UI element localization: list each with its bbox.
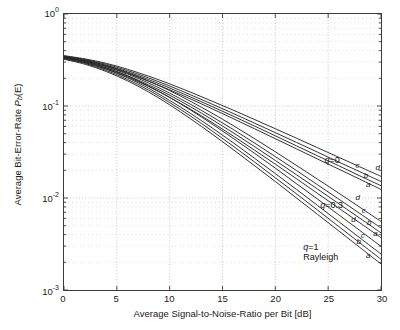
curve-label-a: a (373, 229, 377, 238)
x-axis-title: Average Signal-to-Noise-Ratio per Bit [d… (63, 308, 382, 319)
y-tick-label: 10-1 (42, 100, 59, 111)
y-axis-title-pre: Average Bit-Error-Rate (12, 106, 23, 205)
curve-label-d: d (351, 215, 355, 224)
y-axis-title: Average Bit-Error-Rate Pb(E) (12, 0, 23, 290)
x-tick-label: 30 (377, 293, 388, 304)
annotation-rayleigh-label: Rayleigh (303, 252, 338, 262)
x-tick-label: 5 (114, 293, 119, 304)
y-tick-exponent: -2 (53, 192, 59, 199)
y-axis-title-subscript: b (16, 96, 23, 100)
x-tick-label: 20 (270, 293, 281, 304)
y-tick-mantissa: 10 (42, 286, 53, 297)
y-axis-title-symbol: P (12, 100, 23, 106)
x-tick-label: 25 (324, 293, 335, 304)
annotation-q1-value: =1 (308, 242, 318, 252)
y-axis-tick-labels: 100 10-1 10-2 10-3 (0, 13, 59, 291)
curve-label-c: c (355, 161, 359, 170)
y-tick-label: 10-2 (42, 193, 59, 204)
annotation-q03-value: =0.3 (325, 200, 343, 210)
annotation-q0: q=0 (325, 155, 340, 165)
x-tick-label: 10 (164, 293, 175, 304)
annotation-q1-rayleigh: q=1 Rayleigh (303, 242, 338, 262)
y-tick-mantissa: 10 (45, 8, 56, 19)
figure-canvas: 100 10-1 10-2 10-3 051015202530 Average … (0, 0, 400, 330)
annotation-q03: q=0.3 (320, 200, 343, 210)
curve-label-d: d (375, 163, 379, 172)
curve-label-d: d (355, 193, 359, 202)
y-axis-title-post: (E) (12, 84, 23, 97)
curve-label-a: a (366, 180, 370, 189)
y-tick-label: 100 (45, 8, 59, 19)
y-tick-exponent: -1 (53, 99, 59, 106)
y-tick-exponent: -3 (53, 284, 59, 291)
y-tick-mantissa: 10 (42, 193, 53, 204)
annotation-q1-line1: q=1 (303, 242, 338, 252)
y-tick-label: 10-3 (42, 286, 59, 297)
curve-label-b: b (367, 218, 371, 227)
x-tick-label: 0 (60, 293, 65, 304)
curve-label-c: c (362, 206, 366, 215)
curve-label-c: c (361, 231, 365, 240)
curve-label-a: a (366, 251, 370, 260)
y-tick-mantissa: 10 (42, 100, 53, 111)
curve-label-b: b (364, 171, 368, 180)
annotation-q0-value: =0 (330, 155, 340, 165)
y-tick-exponent: 0 (55, 6, 59, 13)
x-axis-tick-labels: 051015202530 (63, 293, 382, 307)
x-tick-label: 15 (217, 293, 228, 304)
